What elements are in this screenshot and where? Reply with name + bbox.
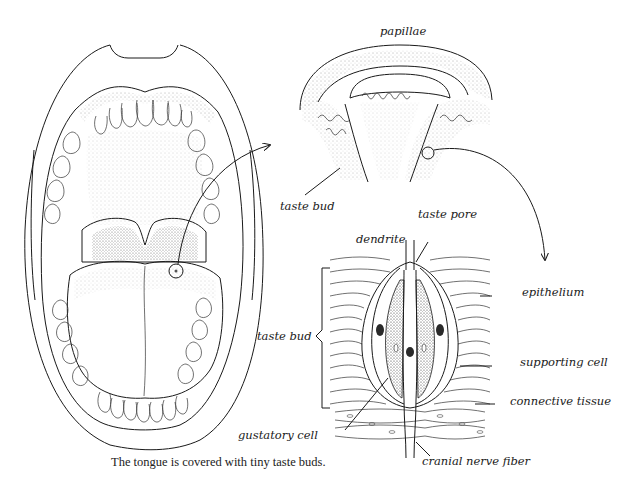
figure-caption: The tongue is covered with tiny taste bu…	[111, 456, 326, 469]
label-taste-pore: taste pore	[418, 209, 477, 221]
label-dendrite: dendrite	[356, 234, 406, 246]
mouth-illustration	[25, 45, 263, 450]
label-connective-tissue: connective tissue	[510, 396, 611, 408]
label-epithelium: epithelium	[522, 287, 584, 299]
label-taste-bud-side: taste bud	[257, 331, 312, 343]
label-papillae: papillae	[380, 26, 426, 38]
arrow-to-taste-bud	[434, 148, 545, 260]
papillae-illustration	[300, 45, 492, 182]
taste-bud-illustration	[330, 240, 490, 458]
taste-bud-bracket	[316, 268, 330, 408]
taste-bud-diagram: papillae taste bud taste pore dendrite e…	[0, 0, 618, 478]
label-cranial-nerve-fiber: cranial nerve fiber	[422, 456, 530, 468]
label-taste-bud-top: taste bud	[280, 201, 335, 213]
label-supporting-cell: supporting cell	[520, 357, 608, 369]
label-gustatory-cell: gustatory cell	[238, 430, 318, 442]
taste-bud-pointer-top	[305, 168, 340, 195]
